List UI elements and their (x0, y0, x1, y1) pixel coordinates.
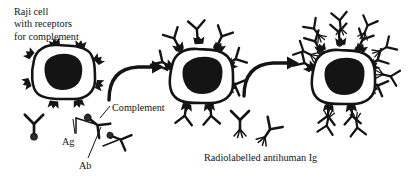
leader-line-ab (88, 127, 101, 158)
free-radiolabelled-ig-1 (231, 111, 249, 138)
cell-nucleus-stage1 (44, 54, 82, 90)
label-antigen: Ag (62, 136, 74, 148)
label-antibody: Ab (79, 160, 91, 172)
label-radiolabelled-antihuman-ig: Radiolabelled antihuman Ig (204, 152, 317, 164)
leader-line-complement (100, 106, 110, 118)
stage-3-raji-cell-with-radiolabelled-ig (293, 12, 400, 137)
cell-nucleus-stage2 (182, 57, 222, 94)
free-antibody-with-complement (25, 115, 43, 140)
arrow-stage1-to-stage2 (109, 61, 164, 101)
caption-raji-cell: Raji cell with receptors for complement (14, 6, 79, 43)
stage-1-raji-cell-bare (21, 37, 106, 110)
free-radiolabelled-ig-2 (253, 117, 283, 149)
figure-canvas: Raji cell with receptors for complement … (0, 0, 418, 182)
cell-nucleus-stage3 (324, 58, 364, 95)
arrow-stage2-to-stage3 (244, 57, 299, 97)
stage-2-raji-cell-with-immune-complexes (151, 20, 247, 125)
ag-ab-complement-complex-1 (76, 108, 110, 137)
ag-ab-complement-complex-2 (103, 127, 131, 151)
leader-line-ag (73, 119, 75, 134)
label-complement: Complement (112, 102, 165, 114)
